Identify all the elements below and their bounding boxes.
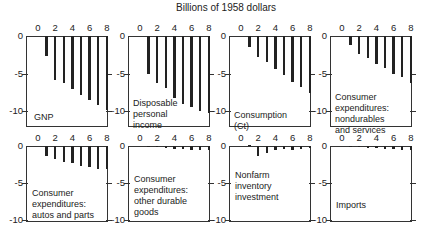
- x-tick-label: 0: [35, 22, 40, 33]
- x-tick-label: 8: [408, 22, 413, 33]
- panel-label: Consumption (Ct): [234, 110, 287, 132]
- panel-label: Disposable personal income: [133, 98, 178, 131]
- y-tick-mark: [326, 111, 332, 112]
- y-tick-mark: [124, 183, 130, 184]
- y-tick-mark: [22, 111, 28, 112]
- x-tick-label: 4: [172, 132, 177, 143]
- panel-label: Nonfarm inventory investment: [235, 170, 279, 203]
- bar: [182, 146, 185, 149]
- x-tick-label: 2: [53, 132, 58, 143]
- x-tick-label: 0: [137, 22, 142, 33]
- y-tick-mark: [326, 220, 332, 221]
- y-tick-label: -10: [3, 214, 23, 225]
- x-tick-label: 0: [137, 132, 142, 143]
- x-tick-label: 2: [256, 132, 261, 143]
- bar: [410, 146, 413, 150]
- bar: [190, 146, 193, 150]
- y-tick-label: 0: [105, 140, 125, 151]
- bar: [54, 146, 57, 159]
- bar: [156, 36, 159, 83]
- bar: [147, 36, 150, 74]
- panel-label: Consumer expenditures: other durable goo…: [134, 174, 188, 218]
- x-tick-label: 0: [339, 22, 344, 33]
- bar: [80, 36, 83, 95]
- x-tick-label: 4: [273, 22, 278, 33]
- bar: [173, 146, 176, 149]
- panel-label: Consumer expenditures: autos and parts: [32, 188, 94, 221]
- bar: [375, 146, 378, 148]
- x-tick-label: 2: [155, 22, 160, 33]
- y-tick-label: 0: [3, 30, 23, 41]
- panel-label: Imports: [336, 200, 366, 211]
- x-tick-label: 2: [155, 132, 160, 143]
- bar: [190, 36, 193, 107]
- y-tick-label: 0: [307, 30, 327, 41]
- x-tick-label: 2: [357, 132, 362, 143]
- y-tick-label: -5: [3, 177, 23, 188]
- y-tick-mark: [22, 183, 28, 184]
- bar: [71, 146, 74, 163]
- bar: [401, 36, 404, 77]
- bar: [199, 146, 202, 150]
- bar: [182, 36, 185, 104]
- x-tick-label: 6: [87, 22, 92, 33]
- x-tick-label: 2: [53, 22, 58, 33]
- y-tick-label: -5: [3, 68, 23, 79]
- x-tick-label: 6: [290, 22, 295, 33]
- x-tick-label: 0: [35, 132, 40, 143]
- bar: [248, 36, 251, 47]
- x-tick-label: 6: [391, 22, 396, 33]
- y-tick-label: -10: [3, 105, 23, 116]
- bar: [367, 146, 370, 148]
- bar: [45, 36, 48, 56]
- y-tick-label: -10: [307, 214, 327, 225]
- bar: [80, 146, 83, 166]
- x-tick-label: 2: [256, 22, 261, 33]
- bar: [392, 146, 395, 149]
- y-tick-mark: [124, 74, 130, 75]
- bar: [173, 36, 176, 98]
- y-tick-label: -10: [105, 214, 125, 225]
- bar: [199, 36, 202, 111]
- chart-title: Billions of 1958 dollars: [176, 2, 276, 13]
- bar: [349, 36, 352, 45]
- panel-label: Consumer expenditures: nondurables and s…: [335, 92, 389, 136]
- x-tick-label: 6: [189, 22, 194, 33]
- bar: [274, 36, 277, 69]
- bar: [384, 36, 387, 68]
- x-tick-label: 6: [391, 132, 396, 143]
- bar: [248, 145, 251, 146]
- y-tick-label: 0: [206, 30, 226, 41]
- y-tick-mark: [326, 183, 332, 184]
- y-tick-mark: [410, 220, 416, 221]
- x-tick-label: 8: [408, 132, 413, 143]
- bar: [88, 36, 91, 100]
- y-tick-label: 0: [3, 140, 23, 151]
- y-tick-label: -10: [307, 105, 327, 116]
- y-tick-label: -10: [105, 105, 125, 116]
- bar: [291, 146, 294, 150]
- y-tick-mark: [124, 220, 130, 221]
- bar: [358, 36, 361, 54]
- bar: [274, 146, 277, 150]
- y-tick-mark: [225, 74, 231, 75]
- bar: [63, 146, 66, 162]
- bar: [300, 36, 303, 87]
- x-tick-label: 4: [70, 132, 75, 143]
- panel-label: GNP: [34, 112, 54, 123]
- y-tick-label: -5: [206, 68, 226, 79]
- bar: [147, 146, 150, 147]
- bar: [283, 146, 286, 149]
- bar: [410, 36, 413, 83]
- y-tick-label: -5: [105, 177, 125, 188]
- x-tick-label: 0: [339, 132, 344, 143]
- bar: [367, 36, 370, 58]
- y-tick-mark: [124, 111, 130, 112]
- y-tick-label: 0: [105, 30, 125, 41]
- x-tick-label: 2: [357, 22, 362, 33]
- x-tick-label: 4: [70, 22, 75, 33]
- bar: [392, 36, 395, 74]
- y-tick-label: 0: [206, 140, 226, 151]
- x-tick-label: 4: [172, 22, 177, 33]
- y-tick-mark: [410, 111, 416, 112]
